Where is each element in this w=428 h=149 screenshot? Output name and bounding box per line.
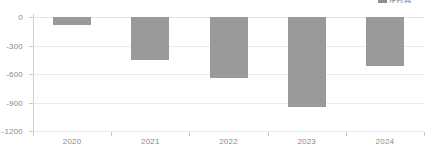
bar (131, 17, 169, 60)
x-axis-tick-label: 2021 (141, 137, 160, 146)
y-axis-tick (29, 17, 33, 18)
bar (210, 17, 248, 78)
y-axis-tick-label: -900 (6, 98, 23, 107)
y-axis-tick (29, 103, 33, 104)
y-axis-tick (29, 74, 33, 75)
y-axis-tick-label: -1200 (2, 127, 23, 136)
y-axis-tick (29, 46, 33, 47)
x-axis-tick (189, 132, 190, 136)
bar (366, 17, 404, 66)
y-axis-tick-label: -300 (6, 41, 23, 50)
bar (53, 17, 91, 25)
y-axis-tick-label: 0 (18, 13, 23, 22)
x-axis-tick-label: 2022 (219, 137, 238, 146)
x-axis-tick-label: 2023 (297, 137, 316, 146)
x-axis-tick (33, 132, 34, 136)
bar-chart: 净利润 0-300-600-900-1200202020212022202320… (0, 0, 428, 149)
gridline (33, 131, 424, 132)
legend-item: 净利润 (378, 0, 422, 4)
chart-legend: 净利润 (378, 0, 422, 4)
x-axis-tick (268, 132, 269, 136)
plot-area (33, 17, 424, 131)
x-axis-tick (111, 132, 112, 136)
y-axis-tick-label: -600 (6, 70, 23, 79)
x-axis-tick-label: 2024 (376, 137, 395, 146)
gridline (33, 103, 424, 104)
legend-swatch-icon (378, 0, 387, 3)
bar (288, 17, 326, 107)
legend-label: 净利润 (389, 0, 411, 4)
x-axis-tick (346, 132, 347, 136)
x-axis-tick-label: 2020 (63, 137, 82, 146)
x-axis-tick (424, 132, 425, 136)
